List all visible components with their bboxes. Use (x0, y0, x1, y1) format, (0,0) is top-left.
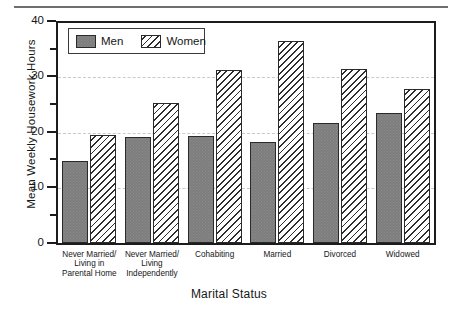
bar-women-5 (404, 89, 430, 243)
x-category-label-5: Widowed (371, 250, 434, 259)
top-divider-rule (14, 6, 448, 8)
y-tick-10 (47, 186, 56, 188)
bar-women-2 (216, 70, 242, 243)
bar-men-5 (376, 113, 402, 243)
plot-area: Men Women (56, 21, 436, 245)
x-category-label-2: Cohabiting (183, 250, 246, 259)
x-category-label-3: Married (246, 250, 309, 259)
bar-women-4 (341, 69, 367, 243)
x-category-label-1: Never Married/ Living Independently (121, 250, 184, 278)
bar-men-0 (62, 161, 88, 244)
legend-swatch-women-icon (141, 35, 161, 48)
bar-women-3 (278, 41, 304, 243)
y-tick-40 (47, 20, 56, 22)
y-tick-label-30: 30 (0, 69, 44, 81)
y-axis-title: Mean Weekly Housework Hours (25, 24, 37, 224)
y-tick-0 (47, 242, 56, 244)
legend-entry-women: Women (141, 35, 205, 48)
bar-men-1 (125, 137, 151, 243)
legend: Men Women (68, 28, 205, 54)
y-tick-label-20: 20 (0, 125, 44, 137)
y-tick-label-0: 0 (0, 236, 44, 248)
legend-label-women: Women (166, 35, 205, 47)
bar-men-3 (250, 142, 276, 243)
x-category-label-4: Divorced (309, 250, 372, 259)
y-tick-20 (47, 131, 56, 133)
bar-women-0 (90, 135, 116, 243)
legend-swatch-men-icon (76, 35, 96, 48)
legend-entry-men: Men (76, 35, 123, 48)
bar-men-4 (313, 123, 339, 243)
bar-women-1 (153, 103, 179, 243)
x-axis-title: Marital Status (0, 287, 458, 301)
legend-label-men: Men (101, 35, 123, 47)
gridline-30 (58, 77, 434, 78)
y-tick-label-40: 40 (0, 14, 44, 26)
y-tick-label-10: 10 (0, 180, 44, 192)
y-tick-30 (47, 75, 56, 77)
x-category-label-0: Never Married/ Living in Parental Home (58, 250, 121, 278)
bar-men-2 (188, 136, 214, 243)
housework-bar-chart: Mean Weekly Housework Hours 40 30 20 10 … (0, 0, 458, 313)
